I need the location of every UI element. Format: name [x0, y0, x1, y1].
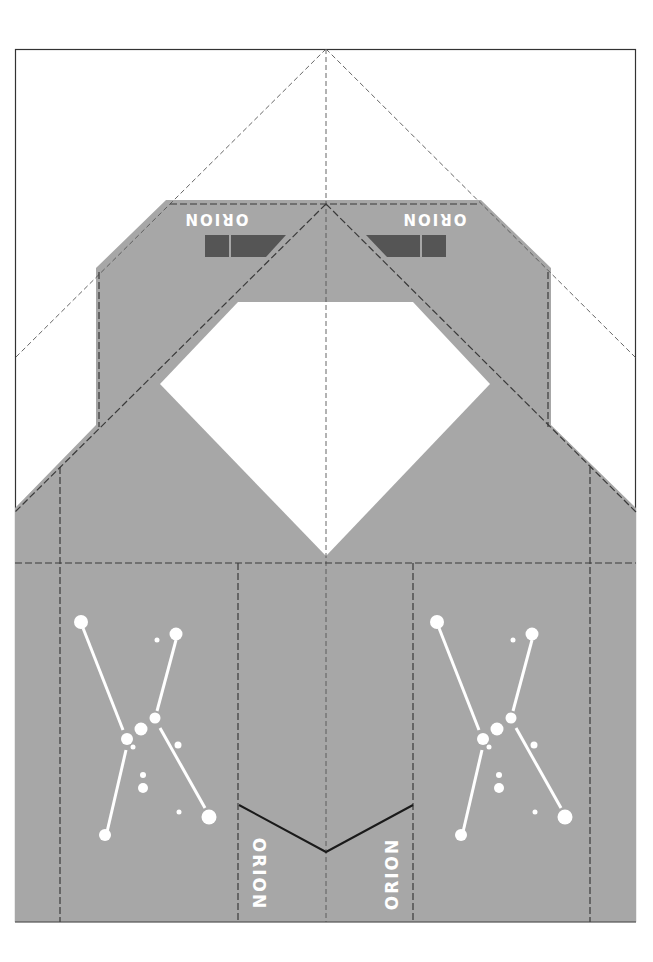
label-top-right: ORION	[401, 210, 466, 228]
papercraft-template: ORION ORION ORION ORION	[0, 0, 653, 962]
label-top-left: ORION	[183, 210, 248, 228]
label-bottom-right: ORION	[382, 838, 402, 911]
label-bottom-left: ORION	[249, 838, 269, 911]
